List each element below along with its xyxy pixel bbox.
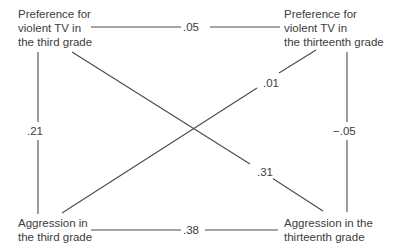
coef-tv3-tv13: .05: [183, 20, 199, 34]
coef-tv13-ag13: −.05: [333, 124, 356, 138]
edge-tv3-ag13-upper: [72, 52, 250, 164]
node-tv-preference-third-grade: Preference for violent TV in the third g…: [18, 7, 92, 49]
edge-ag3-tv13-upper: [279, 50, 316, 73]
coef-ag3-ag13: .38: [183, 223, 199, 237]
coef-tv3-ag3: .21: [27, 124, 43, 138]
edge-tv3-ag13-lower: [272, 178, 323, 211]
coef-tv3-ag13: .31: [257, 165, 273, 179]
node-tv-preference-thirteenth-grade: Preference for violent TV in the thirtee…: [284, 7, 384, 49]
node-aggression-thirteenth-grade: Aggression in the thirteenth grade: [284, 216, 373, 244]
coef-ag3-tv13: .01: [263, 76, 279, 90]
node-aggression-third-grade: Aggression in the third grade: [18, 216, 92, 244]
